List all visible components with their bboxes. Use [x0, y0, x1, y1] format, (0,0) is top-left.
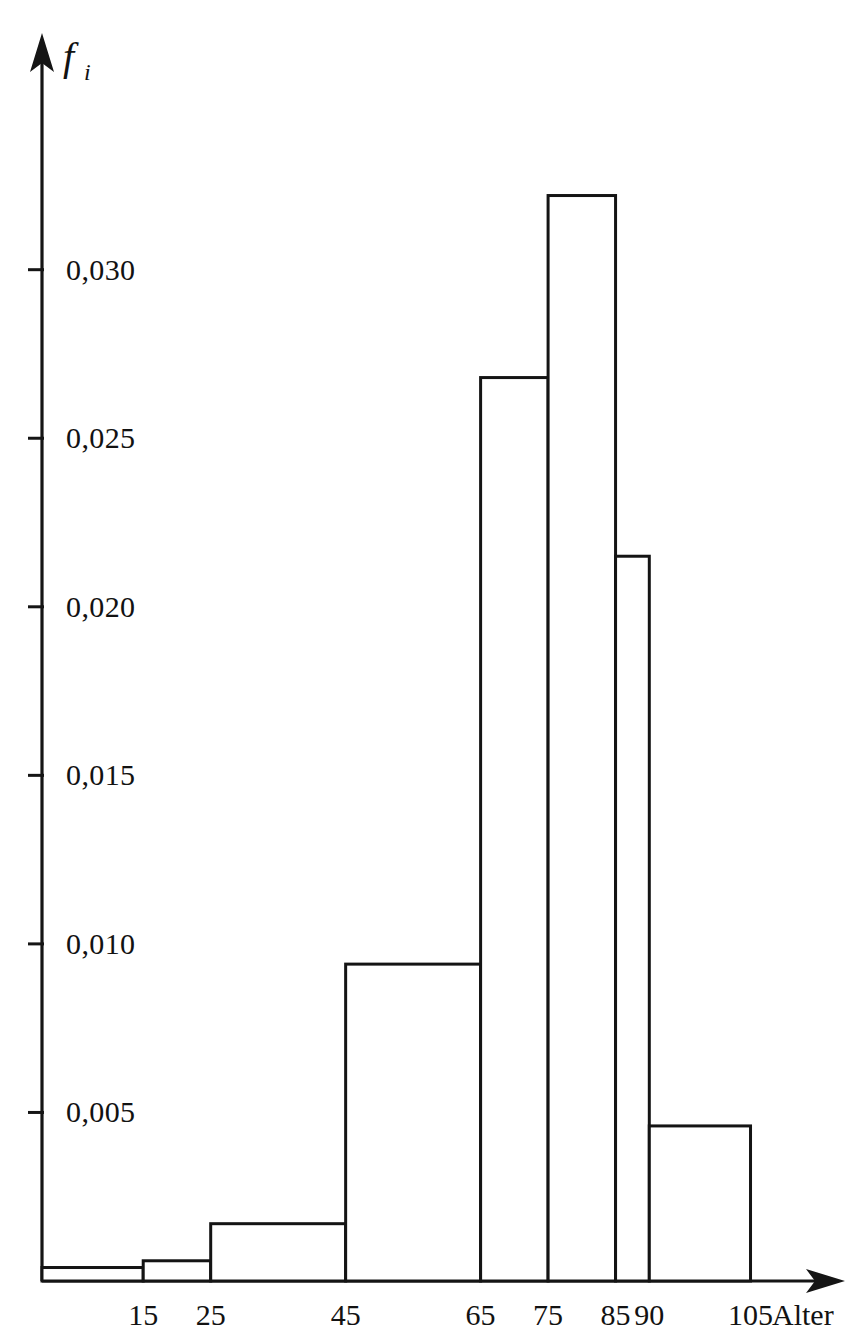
y-axis-title: f i	[63, 34, 91, 85]
x-tick-group: 15254565758590105	[128, 1298, 773, 1331]
histogram-svg: f i 0,0050,0100,0150,0200,0250,030 15254…	[0, 0, 868, 1337]
bar-group	[42, 196, 751, 1281]
x-tick-label: 45	[331, 1298, 361, 1331]
y-tick-label: 0,025	[66, 421, 136, 454]
x-tick-label: 75	[533, 1298, 563, 1331]
x-tick-label: 25	[196, 1298, 226, 1331]
histogram-bar	[211, 1224, 346, 1281]
y-axis	[30, 33, 54, 1281]
histogram-bar	[616, 556, 650, 1281]
x-tick-label: 105	[728, 1298, 773, 1331]
y-tick-label: 0,015	[66, 758, 136, 791]
x-tick-label: 85	[601, 1298, 631, 1331]
y-tick-label: 0,005	[66, 1095, 136, 1128]
x-tick-label: 65	[466, 1298, 496, 1331]
histogram-bar	[143, 1261, 210, 1281]
x-tick-label: 90	[634, 1298, 664, 1331]
x-axis-title: Alter	[772, 1298, 834, 1331]
x-tick-label: 15	[128, 1298, 158, 1331]
y-tick-label: 0,030	[66, 253, 136, 286]
histogram-bar	[346, 964, 481, 1281]
histogram-bar	[649, 1126, 750, 1281]
y-axis-title-text: f	[63, 34, 79, 79]
histogram-bar	[42, 1268, 143, 1281]
histogram-bar	[548, 196, 615, 1281]
y-tick-label: 0,020	[66, 590, 136, 623]
histogram-bar	[481, 378, 548, 1281]
y-tick-group: 0,0050,0100,0150,0200,0250,030	[28, 253, 136, 1129]
y-tick-label: 0,010	[66, 927, 136, 960]
y-axis-title-subscript: i	[84, 59, 91, 85]
histogram-chart: f i 0,0050,0100,0150,0200,0250,030 15254…	[0, 0, 868, 1337]
